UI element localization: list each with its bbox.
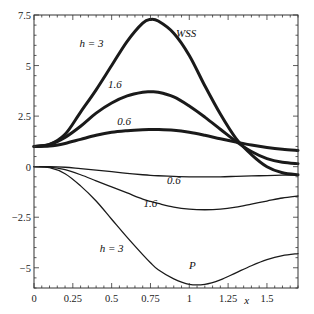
y-tick-label: 5: [26, 61, 31, 72]
x-tick-label: 1: [187, 293, 192, 304]
axis-frame: [34, 15, 298, 288]
x-tick-label: 0.25: [64, 293, 82, 304]
chart-canvas: 00.250.50.7511.251.5−5−2.502.557.5 x h =…: [0, 0, 314, 314]
curve-label: h = 3: [100, 242, 124, 254]
axis-ticks: [34, 15, 298, 288]
x-axis-label: x: [243, 294, 249, 306]
y-tick-label: −5: [20, 263, 31, 274]
curve-label: 0.6: [167, 174, 181, 186]
y-tick-label: 2.5: [18, 111, 31, 122]
curve-label: WSS: [176, 27, 197, 39]
y-tick-label: −2.5: [12, 212, 31, 223]
plot-lines: [34, 19, 298, 285]
series-line-wss-h-1-6: [34, 92, 298, 164]
curve-label: 1.6: [108, 78, 122, 90]
series-line-wss-h-3: [34, 19, 298, 175]
tick-labels: 00.250.50.7511.251.5−5−2.502.557.5: [12, 10, 274, 304]
x-tick-label: 0.75: [141, 293, 159, 304]
curve-label: 1.6: [144, 197, 158, 209]
x-tick-label: 1.5: [260, 293, 273, 304]
y-tick-label: 0: [26, 162, 31, 173]
x-tick-label: 0: [31, 293, 36, 304]
curve-annotations: h = 3WSS1.60.60.61.6h = 3P: [79, 27, 196, 271]
curve-label: h = 3: [79, 37, 103, 49]
curve-label: 0.6: [117, 115, 131, 127]
curve-label: P: [188, 259, 196, 271]
x-tick-label: 0.5: [105, 293, 118, 304]
x-tick-label: 1.25: [219, 293, 237, 304]
y-tick-label: 7.5: [18, 10, 31, 21]
